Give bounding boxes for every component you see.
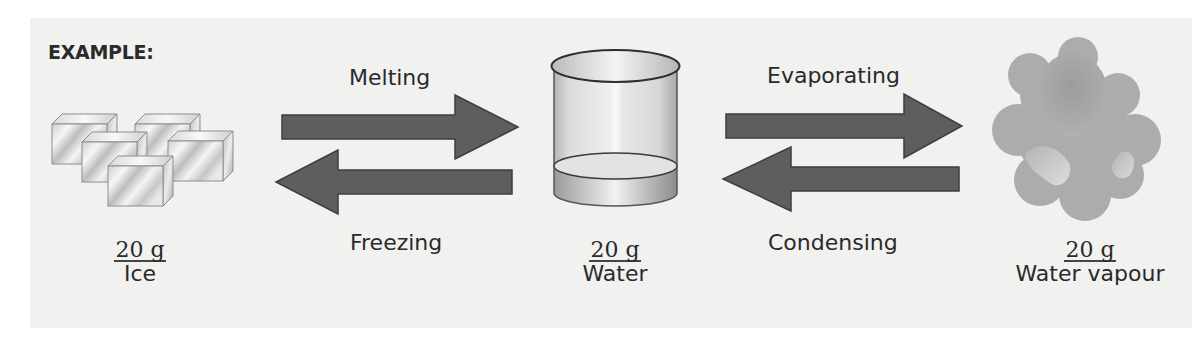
transition-label-evaporating: Evaporating bbox=[767, 63, 900, 88]
state-water-mass: 20 g bbox=[589, 240, 640, 262]
state-water-name: Water bbox=[560, 262, 670, 286]
transition-label-freezing: Freezing bbox=[350, 230, 442, 255]
transition-label-melting: Melting bbox=[349, 65, 430, 90]
state-water-vapour: 20 g Water vapour bbox=[1000, 238, 1180, 286]
state-ice-name: Ice bbox=[95, 262, 185, 286]
state-ice: 20 g Ice bbox=[95, 238, 185, 286]
freezing-arrow-icon bbox=[274, 148, 514, 216]
state-water: 20 g Water bbox=[560, 238, 670, 286]
ice-cubes-icon bbox=[50, 110, 240, 215]
state-water-vapour-name: Water vapour bbox=[1000, 262, 1180, 286]
transition-label-condensing: Condensing bbox=[768, 230, 898, 255]
example-heading: EXAMPLE: bbox=[48, 41, 153, 63]
vapour-cloud-icon bbox=[990, 35, 1175, 230]
beaker-of-water-icon bbox=[548, 48, 683, 210]
state-water-vapour-mass: 20 g bbox=[1064, 240, 1115, 262]
state-ice-mass: 20 g bbox=[114, 240, 165, 262]
condensing-arrow-icon bbox=[721, 145, 961, 213]
